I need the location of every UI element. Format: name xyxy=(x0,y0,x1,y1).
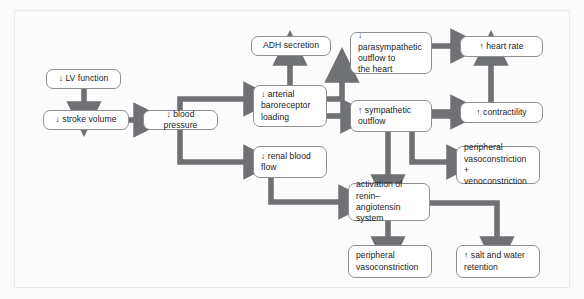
node-label: peripheral vasoconstriction xyxy=(356,250,425,273)
node-salt-and-water-retention: ↑ salt and water retention xyxy=(456,245,540,278)
node-contractility: ↑ contractility xyxy=(460,102,543,123)
node-stroke-volume: ↓ stroke volume xyxy=(43,110,129,130)
node-heart-rate: ↑ heart rate xyxy=(460,36,543,57)
node-label: ↓ arterial baroreceptor loading xyxy=(261,89,320,123)
node-parasympathetic-outflow: ↓ parasympathetic outflow to the heart xyxy=(350,32,432,74)
node-lv-function: ↓ LV function xyxy=(46,69,121,89)
node-label: activation of renin–angiotensin system xyxy=(356,179,423,225)
node-sympathetic-outflow: ↑ sympathetic outflow xyxy=(350,100,432,132)
node-label: ↑ heart rate xyxy=(467,41,536,52)
diagram-canvas: ↓ LV function ↓ stroke volume ↓ blood pr… xyxy=(0,0,584,299)
node-adh-secretion: ADH secretion xyxy=(251,36,331,56)
node-label: peripheral vasoconstriction + venoconstr… xyxy=(464,142,533,188)
node-label: ↓ parasympathetic outflow to the heart xyxy=(358,30,425,76)
node-peripheral-vasoconstriction: peripheral vasoconstriction xyxy=(348,245,432,278)
node-renal-blood-flow: ↓ renal blood flow xyxy=(253,146,327,178)
node-label: ↓ stroke volume xyxy=(50,114,122,125)
node-blood-pressure: ↓ blood pressure xyxy=(143,110,218,130)
node-arterial-baroreceptor-loading: ↓ arterial baroreceptor loading xyxy=(253,85,327,127)
node-peripheral-vasoconstriction-venoconstriction: peripheral vasoconstriction + venoconstr… xyxy=(456,146,540,184)
node-label: ↓ LV function xyxy=(53,73,114,84)
node-label: ↑ contractility xyxy=(467,107,536,118)
node-label: ↑ salt and water retention xyxy=(464,250,533,273)
node-label: ADH secretion xyxy=(258,40,324,51)
node-label: ↓ renal blood flow xyxy=(261,151,320,174)
node-label: ↓ blood pressure xyxy=(150,109,211,132)
node-label: ↑ sympathetic outflow xyxy=(358,105,425,128)
node-renin-angiotensin-system: activation of renin–angiotensin system xyxy=(348,183,430,221)
